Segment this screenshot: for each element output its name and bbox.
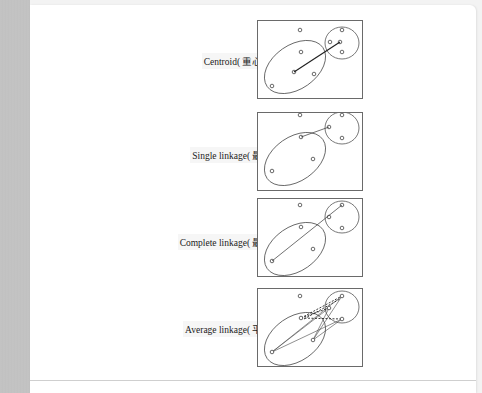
content-card: Centroid( 重心法 ) Si xyxy=(30,5,476,393)
complete-linkage-diagram-svg xyxy=(258,199,364,278)
panel-centroid: Centroid( 重心法 ) xyxy=(30,20,476,100)
average-linkage-diagram-svg xyxy=(258,289,364,368)
single-linkage-diagram-svg xyxy=(258,113,364,192)
diagram-complete-linkage xyxy=(257,198,363,277)
centroid-diagram-svg xyxy=(258,21,364,100)
diagram-single-linkage xyxy=(257,112,363,191)
panel-single-linkage: Single linkage( 最近 ) xyxy=(30,112,476,192)
panel-average-linkage: Average linkage( 平均 ) xyxy=(30,288,476,368)
bottom-divider xyxy=(30,380,476,381)
panel-complete-linkage: Complete linkage( 最遠 ) xyxy=(30,198,476,278)
left-gray-strip xyxy=(0,0,30,393)
diagram-average-linkage xyxy=(257,288,363,367)
diagram-centroid xyxy=(257,20,363,99)
